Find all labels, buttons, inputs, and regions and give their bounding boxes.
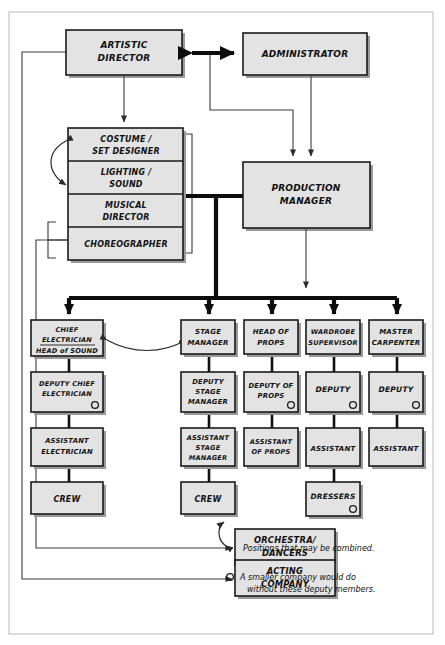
creative-team-stack: COSTUME / SET DESIGNER LIGHTING / SOUND … xyxy=(68,128,186,263)
node-production-manager-line2: MANAGER xyxy=(280,196,332,206)
node-administrator-line1: ADMINISTRATOR xyxy=(261,49,349,59)
node-head-of-props-line1: HEAD OF xyxy=(253,328,289,336)
node-deputy-of-props-line2: PROPS xyxy=(258,392,285,400)
edge-chief-electrician-stage-manager-combinable xyxy=(107,340,186,351)
node-musical-director-line2: DIRECTOR xyxy=(102,213,149,222)
node-lighting-sound-line2: SOUND xyxy=(109,180,143,189)
node-master-carpenter-line1: MASTER xyxy=(379,328,413,336)
legend-deputy-note-line2: without these deputy members. xyxy=(247,585,375,594)
node-assistant-carpenter-line1: ASSISTANT xyxy=(373,445,420,453)
legend-combinable-icon xyxy=(219,522,226,546)
node-costume-set-designer-line2: SET DESIGNER xyxy=(92,147,160,156)
node-master-carpenter[interactable]: MASTER CARPENTER xyxy=(369,320,426,357)
node-dressers-line1: DRESSERS xyxy=(311,492,356,501)
node-crew-stage-line1: CREW xyxy=(194,495,222,504)
node-assistant-electrician-line1: ASSISTANT xyxy=(44,437,90,445)
node-deputy-chief-electrician[interactable]: DEPUTY CHIEF ELECTRICIAN xyxy=(31,372,106,415)
node-chief-electrician-line1: CHIEF xyxy=(56,326,79,334)
node-wardrobe-supervisor[interactable]: WARDROBE SUPERVISOR xyxy=(306,320,363,357)
node-artistic-director[interactable]: ARTISTIC DIRECTOR xyxy=(66,30,185,78)
node-deputy-stage-manager-line2: STAGE xyxy=(195,388,221,396)
node-deputy-stage-manager-line1: DEPUTY xyxy=(192,378,224,386)
node-deputy-stage-manager-line3: MANAGER xyxy=(188,398,228,406)
node-deputy-carpenter-line1: DEPUTY xyxy=(378,385,414,394)
node-assistant-stage-manager-line3: MANAGER xyxy=(189,454,228,462)
node-deputy-of-props-line1: DEPUTY OF xyxy=(249,382,294,390)
node-wardrobe-supervisor-line2: SUPERVISOR xyxy=(308,339,358,347)
node-stage-manager[interactable]: STAGE MANAGER xyxy=(181,320,238,357)
node-deputy-chief-electrician-line1: DEPUTY CHIEF xyxy=(39,380,95,388)
node-musical-director-line1: MUSICAL xyxy=(105,201,147,210)
node-crew-electrics[interactable]: CREW xyxy=(31,482,106,517)
node-master-carpenter-line2: CARPENTER xyxy=(372,339,420,347)
node-choreographer-line1: CHOREOGRAPHER xyxy=(84,240,168,249)
node-production-manager[interactable]: PRODUCTION MANAGER xyxy=(243,162,373,231)
node-stage-manager-line1: STAGE xyxy=(195,328,221,336)
node-assistant-of-props[interactable]: ASSISTANT OF PROPS xyxy=(244,428,301,469)
node-production-manager-line1: PRODUCTION xyxy=(271,183,340,193)
node-assistant-of-props-line2: OF PROPS xyxy=(251,448,290,456)
node-deputy-wardrobe-line1: DEPUTY xyxy=(315,385,351,394)
edge-costume-lighting-combinable xyxy=(51,141,66,185)
node-chief-electrician-line3: HEAD of SOUND xyxy=(36,347,98,355)
node-assistant-electrician[interactable]: ASSISTANT ELECTRICIAN xyxy=(31,428,106,469)
node-crew-electrics-line1: CREW xyxy=(53,495,81,504)
node-artistic-director-line1: ARTISTIC xyxy=(99,40,147,50)
legend-combined-note: Positions that may be combined. xyxy=(243,544,374,553)
node-head-of-props[interactable]: HEAD OF PROPS xyxy=(244,320,301,357)
legend-deputy-note-line1: A smaller company would do xyxy=(239,573,356,582)
node-head-of-props-line2: PROPS xyxy=(257,339,285,347)
node-assistant-stage-manager[interactable]: ASSISTANT STAGE MANAGER xyxy=(181,428,238,469)
node-assistant-wardrobe-line1: ASSISTANT xyxy=(310,445,357,453)
node-deputy-stage-manager[interactable]: DEPUTY STAGE MANAGER xyxy=(181,372,238,415)
node-artistic-director-line2: DIRECTOR xyxy=(98,53,151,63)
node-assistant-electrician-line2: ELECTRICIAN xyxy=(41,448,93,456)
node-administrator[interactable]: ADMINISTRATOR xyxy=(243,33,370,78)
node-deputy-chief-electrician-line2: ELECTRICIAN xyxy=(42,390,92,398)
node-assistant-stage-manager-line2: STAGE xyxy=(196,444,221,452)
node-assistant-carpenter[interactable]: ASSISTANT xyxy=(369,428,426,469)
node-costume-set-designer-line1: COSTUME / xyxy=(100,135,152,144)
node-deputy-of-props[interactable]: DEPUTY OF PROPS xyxy=(244,372,301,415)
node-assistant-of-props-line1: ASSISTANT xyxy=(249,438,293,446)
node-choreographer[interactable]: CHOREOGRAPHER xyxy=(84,240,168,249)
node-lighting-sound-line1: LIGHTING / xyxy=(101,168,153,177)
node-deputy-wardrobe[interactable]: DEPUTY xyxy=(306,372,363,415)
node-deputy-carpenter[interactable]: DEPUTY xyxy=(369,372,426,415)
node-chief-electrician[interactable]: CHIEF ELECTRICIAN HEAD of SOUND xyxy=(31,320,106,359)
node-crew-stage[interactable]: CREW xyxy=(181,482,238,517)
node-stage-manager-line2: MANAGER xyxy=(188,339,229,347)
organisation-chart: ARTISTIC DIRECTOR ADMINISTRATOR COSTUME … xyxy=(0,0,445,645)
node-assistant-stage-manager-line1: ASSISTANT xyxy=(186,434,230,442)
node-assistant-wardrobe[interactable]: ASSISTANT xyxy=(306,428,363,469)
node-chief-electrician-line2: ELECTRICIAN xyxy=(42,336,92,344)
node-wardrobe-supervisor-line1: WARDROBE xyxy=(311,328,356,336)
node-dressers[interactable]: DRESSERS xyxy=(306,482,363,519)
